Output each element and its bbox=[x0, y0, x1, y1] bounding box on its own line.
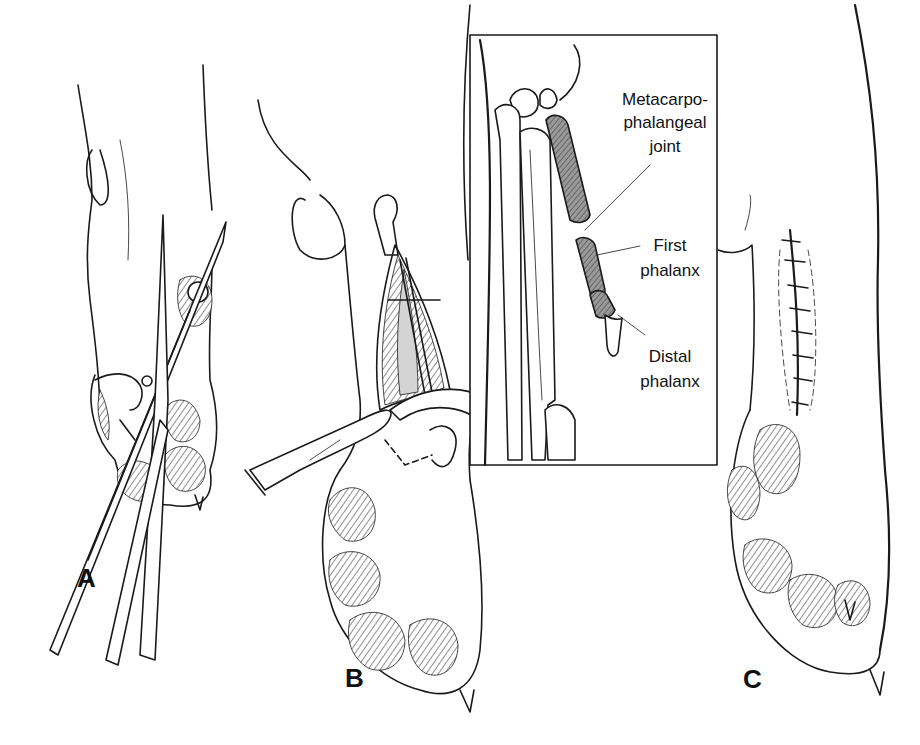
panel-label-a: A bbox=[77, 563, 96, 593]
label-joint-line-2: phalangeal bbox=[623, 113, 706, 132]
panel-c: C bbox=[718, 5, 889, 695]
panel-label-c: C bbox=[743, 664, 762, 694]
panel-label-b: B bbox=[345, 663, 364, 693]
label-distal-phalanx-line-1: Distal bbox=[649, 347, 692, 366]
panel-a: A bbox=[50, 65, 226, 665]
label-joint-line-3: joint bbox=[648, 137, 680, 156]
incision-line bbox=[790, 230, 798, 415]
label-first-phalanx-line-1: First bbox=[653, 236, 686, 255]
bone-inset: Metacarpo- phalangeal joint First phalan… bbox=[470, 35, 717, 465]
label-distal-phalanx-line-2: phalanx bbox=[640, 372, 700, 391]
surgical-illustration: A B bbox=[0, 0, 920, 745]
label-joint-line-1: Metacarpo- bbox=[622, 90, 708, 109]
panel-b: B bbox=[245, 5, 502, 712]
label-first-phalanx-line-2: phalanx bbox=[640, 261, 700, 280]
